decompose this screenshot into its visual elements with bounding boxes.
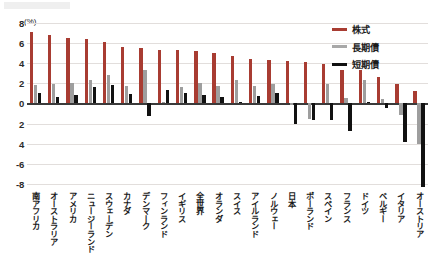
x-axis-label: ニュージーランド xyxy=(85,192,93,253)
x-axis-label: カナダ xyxy=(122,192,130,215)
bar-長期債 xyxy=(326,84,329,103)
legend-swatch-icon xyxy=(332,63,347,66)
x-axis-label: ポーランド xyxy=(305,192,313,230)
legend-item-long[interactable]: 長期債 xyxy=(332,40,378,54)
bar-株式 xyxy=(66,38,69,103)
bar-長期債 xyxy=(253,86,256,103)
x-axis-label: スペイン xyxy=(323,192,331,222)
bar-長期債 xyxy=(363,80,366,103)
bar-短期債 xyxy=(330,103,333,119)
bar-長期債 xyxy=(271,84,274,103)
bar-長期債 xyxy=(417,103,420,143)
bar-短期債 xyxy=(38,93,41,103)
bar-長期債 xyxy=(381,99,384,103)
bar-株式 xyxy=(158,50,161,103)
bar-株式 xyxy=(340,70,343,103)
y-axis-tick: 6 xyxy=(0,38,24,49)
x-axis-label: フィンランド xyxy=(158,192,166,238)
bar-長期債 xyxy=(216,86,219,103)
bar-短期債 xyxy=(275,93,278,103)
bar-長期債 xyxy=(399,103,402,114)
bar-短期債 xyxy=(166,90,169,103)
y-axis-tick: -6 xyxy=(0,158,24,169)
bar-長期債 xyxy=(290,103,293,105)
bar-group xyxy=(410,23,428,190)
x-axis-label: オーストリア xyxy=(414,192,422,238)
x-axis-category-labels: 南アフリカオーストラリアアメリカニュージーランドスウェーデンカナダデンマークフィ… xyxy=(26,192,428,280)
bar-長期債 xyxy=(70,83,73,103)
x-axis-label: イタリア xyxy=(396,192,404,222)
image-artifact xyxy=(4,2,70,9)
bar-株式 xyxy=(194,51,197,103)
legend-item-short[interactable]: 短期債 xyxy=(332,57,378,71)
legend-swatch-icon xyxy=(332,28,347,31)
bar-株式 xyxy=(103,42,106,103)
bar-group xyxy=(117,23,135,190)
chart-legend: 株式長期債短期債 xyxy=(332,22,378,71)
bar-株式 xyxy=(359,70,362,103)
x-axis-label: 全世界 xyxy=(195,192,203,215)
bar-株式 xyxy=(30,32,33,103)
bar-長期債 xyxy=(180,87,183,103)
bar-長期債 xyxy=(125,86,128,103)
bar-株式 xyxy=(48,35,51,103)
x-axis-label: ベルギー xyxy=(378,192,386,222)
bar-株式 xyxy=(176,50,179,103)
bar-株式 xyxy=(249,59,252,103)
bar-group xyxy=(282,23,300,190)
bar-長期債 xyxy=(52,84,55,103)
y-axis-tick-labels: 8642024-6-8 xyxy=(0,23,24,190)
bar-group xyxy=(136,23,154,190)
legend-label: 短期債 xyxy=(352,57,378,71)
bar-短期債 xyxy=(367,102,370,103)
bar-group xyxy=(391,23,409,190)
y-axis-tick: 4 xyxy=(0,58,24,69)
bar-株式 xyxy=(212,53,215,103)
bar-長期債 xyxy=(344,98,347,103)
y-axis-tick: -8 xyxy=(0,178,24,189)
bar-株式 xyxy=(121,47,124,103)
legend-label: 長期債 xyxy=(352,40,378,54)
bar-株式 xyxy=(85,39,88,103)
bar-短期債 xyxy=(93,87,96,103)
bar-株式 xyxy=(267,60,270,103)
bar-group xyxy=(172,23,190,190)
bar-株式 xyxy=(413,91,416,103)
bar-短期債 xyxy=(385,103,388,108)
bar-短期債 xyxy=(129,94,132,103)
bar-group xyxy=(81,23,99,190)
legend-label: 株式 xyxy=(352,22,370,36)
bar-短期債 xyxy=(239,102,242,103)
bar-長期債 xyxy=(107,75,110,103)
x-axis-label: 南アフリカ xyxy=(31,192,39,230)
x-axis-label: デンマーク xyxy=(140,192,148,230)
bar-短期債 xyxy=(111,85,114,103)
legend-item-equity[interactable]: 株式 xyxy=(332,22,378,36)
bar-株式 xyxy=(286,61,289,103)
bar-長期債 xyxy=(89,80,92,103)
bar-group xyxy=(44,23,62,190)
x-axis-label: オーストラリア xyxy=(49,192,57,245)
bar-group xyxy=(26,23,44,190)
bar-group xyxy=(245,23,263,190)
y-axis-tick: 4 xyxy=(0,138,24,149)
bar-group xyxy=(63,23,81,190)
bar-長期債 xyxy=(143,70,146,103)
bar-group xyxy=(154,23,172,190)
y-axis-tick: 0 xyxy=(0,98,24,109)
bar-短期債 xyxy=(421,103,424,187)
x-axis-label: スイス xyxy=(232,192,240,215)
x-axis-label: スウェーデン xyxy=(104,192,112,238)
bar-長期債 xyxy=(235,80,238,103)
y-axis-tick: 8 xyxy=(0,18,24,29)
bar-短期債 xyxy=(74,95,77,103)
bar-株式 xyxy=(395,84,398,103)
bar-group xyxy=(99,23,117,190)
bar-短期債 xyxy=(147,103,150,115)
bar-長期債 xyxy=(34,85,37,103)
bar-group xyxy=(190,23,208,190)
bar-短期債 xyxy=(348,103,351,130)
bar-株式 xyxy=(304,62,307,103)
bar-株式 xyxy=(231,56,234,103)
y-axis-tick: 2 xyxy=(0,118,24,129)
